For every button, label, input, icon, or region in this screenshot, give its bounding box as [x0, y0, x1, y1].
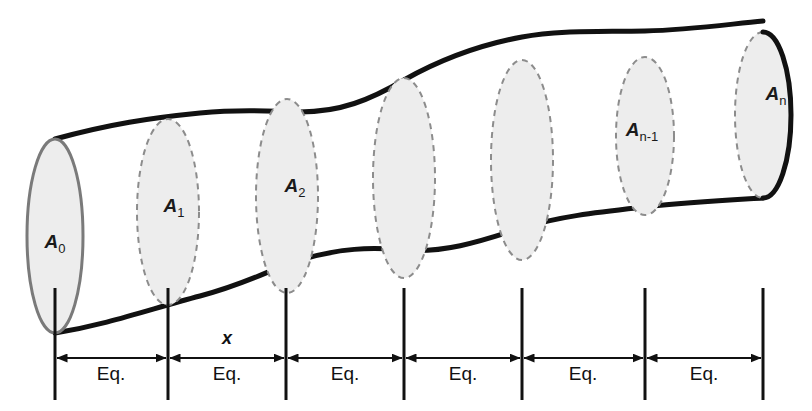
section-ellipse-A2: [256, 99, 318, 293]
dimension-label-eq-5: Eq.: [690, 363, 719, 384]
section-ellipse-A4: [491, 60, 553, 260]
dimension-label-eq-1: Eq.: [213, 363, 242, 384]
dimension-label-eq-4: Eq.: [569, 363, 598, 384]
dimension-label-eq-3: Eq.: [449, 363, 478, 384]
dimension-label-eq-2: Eq.: [331, 363, 360, 384]
duct-diagram: A0A1A2An-1An Eq.Eq.Eq.Eq.Eq.Eq.x: [0, 0, 812, 411]
diagram-canvas: A0A1A2An-1An Eq.Eq.Eq.Eq.Eq.Eq.x: [0, 0, 812, 411]
spacing-label-x: x: [221, 328, 233, 348]
dimension-label-eq-0: Eq.: [97, 363, 126, 384]
section-ellipse-A3: [373, 78, 435, 278]
